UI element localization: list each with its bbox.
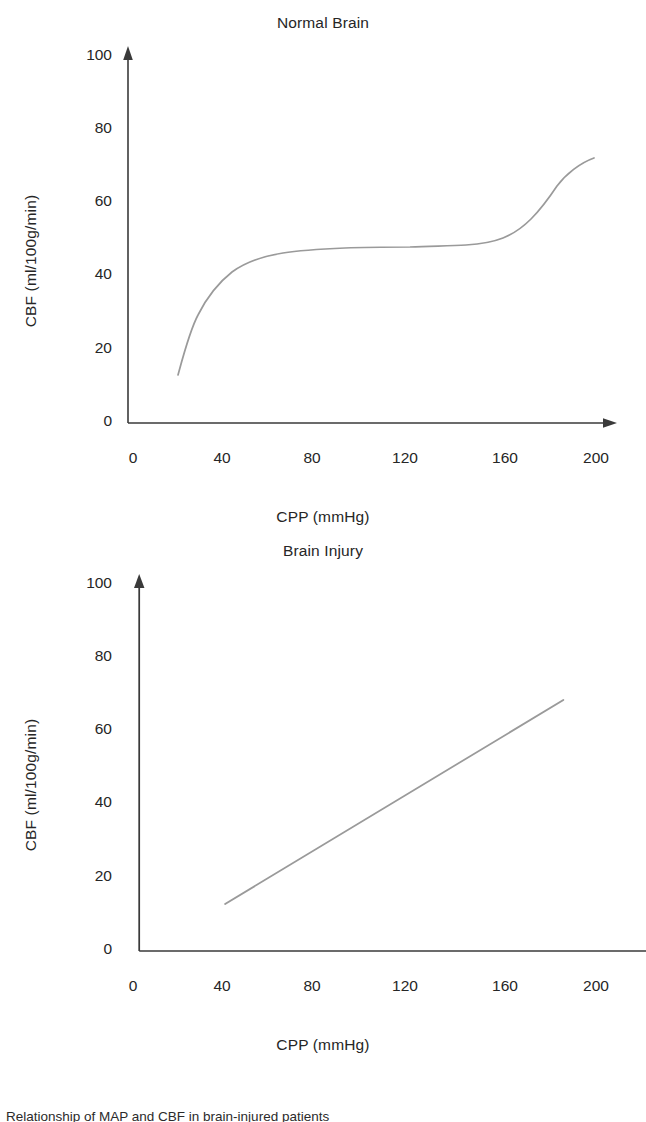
x-tick-label-80: 80 <box>286 977 338 995</box>
x-tick-label-120: 120 <box>379 449 431 467</box>
y-tick-label-40: 40 <box>60 265 112 283</box>
y-tick-label-100: 100 <box>60 46 112 64</box>
figure-caption: Relationship of MAP and CBF in brain-inj… <box>6 1108 646 1122</box>
x-tick-label-200: 200 <box>570 449 622 467</box>
y-axis-arrowhead <box>123 46 133 60</box>
y-tick-label-0: 0 <box>60 940 112 958</box>
x-tick-label-120: 120 <box>379 977 431 995</box>
x-tick-label-160: 160 <box>479 977 531 995</box>
x-axis-arrowhead <box>603 418 617 428</box>
data-curve-normal-brain <box>178 158 594 375</box>
figure-sheet: Normal Brain 100 80 60 40 20 0 0 40 80 1… <box>0 0 646 1122</box>
x-axis-title-brain-injury: CPP (mmHg) <box>0 1036 646 1054</box>
y-axis-title-normal-brain: CBF (ml/100g/min) <box>22 186 40 336</box>
y-tick-label-40: 40 <box>60 793 112 811</box>
y-tick-label-60: 60 <box>60 192 112 210</box>
y-axis-arrowhead <box>134 574 144 588</box>
x-tick-label-40: 40 <box>196 977 248 995</box>
y-tick-label-100: 100 <box>60 574 112 592</box>
y-tick-label-60: 60 <box>60 720 112 738</box>
y-tick-label-0: 0 <box>60 412 112 430</box>
x-axis-title-normal-brain: CPP (mmHg) <box>0 508 646 526</box>
x-tick-label-0: 0 <box>107 449 159 467</box>
chart-brain-injury: Brain Injury 100 80 60 40 20 0 0 40 80 1… <box>0 528 646 1122</box>
x-tick-label-80: 80 <box>286 449 338 467</box>
data-line-brain-injury <box>225 700 563 904</box>
y-axis-title-brain-injury: CBF (ml/100g/min) <box>22 710 40 860</box>
y-tick-label-80: 80 <box>60 119 112 137</box>
x-tick-label-0: 0 <box>107 977 159 995</box>
y-tick-label-20: 20 <box>60 867 112 885</box>
y-tick-label-20: 20 <box>60 339 112 357</box>
x-tick-label-160: 160 <box>479 449 531 467</box>
y-tick-label-80: 80 <box>60 647 112 665</box>
chart-brain-injury-plot <box>0 528 646 1122</box>
x-tick-label-200: 200 <box>570 977 622 995</box>
chart-normal-brain: Normal Brain 100 80 60 40 20 0 0 40 80 1… <box>0 0 646 540</box>
x-tick-label-40: 40 <box>196 449 248 467</box>
